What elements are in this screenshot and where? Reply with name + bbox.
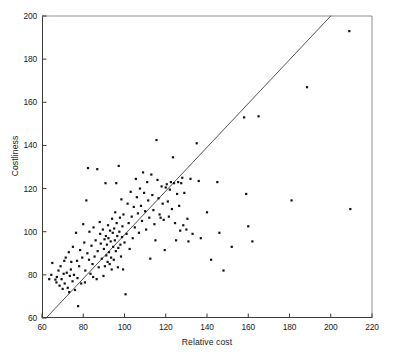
y-tick-label: 80 xyxy=(6,270,37,279)
x-tick-label: 140 xyxy=(200,323,214,332)
plot-frame xyxy=(42,16,372,318)
y-tick-label: 100 xyxy=(6,227,37,236)
x-axis-title: Relative cost xyxy=(42,337,372,347)
x-tick-label: 60 xyxy=(37,323,46,332)
x-tick-label: 120 xyxy=(159,323,173,332)
x-tick-label: 80 xyxy=(79,323,88,332)
x-tick-label: 180 xyxy=(283,323,297,332)
y-tick-label: 180 xyxy=(6,55,37,64)
x-tick-label: 100 xyxy=(118,323,132,332)
x-tick-label: 220 xyxy=(365,323,379,332)
x-tick-label: 200 xyxy=(324,323,338,332)
y-tick-label: 60 xyxy=(6,314,37,323)
y-axis-title: Costliness xyxy=(10,111,20,201)
y-tick-label: 200 xyxy=(6,12,37,21)
y-tick-label: 160 xyxy=(6,98,37,107)
scatter-plot-figure: 6080100120140160180200220 60801001201401… xyxy=(0,0,393,356)
x-tick-label: 160 xyxy=(241,323,255,332)
